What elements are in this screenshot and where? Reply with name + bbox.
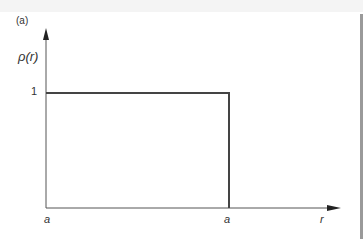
panel-label: (a)	[16, 15, 28, 26]
y-tick-1: 1	[31, 85, 37, 97]
x-tick-left: a	[44, 213, 50, 225]
x-tick-right: a	[224, 213, 230, 225]
step-function-line	[46, 93, 229, 208]
x-axis-arrow-icon	[327, 205, 341, 211]
y-axis-arrow-icon	[43, 28, 49, 40]
x-axis-label: r	[320, 213, 324, 225]
chart-svg	[0, 0, 363, 239]
y-axis-label: ρ(r)	[18, 49, 38, 64]
